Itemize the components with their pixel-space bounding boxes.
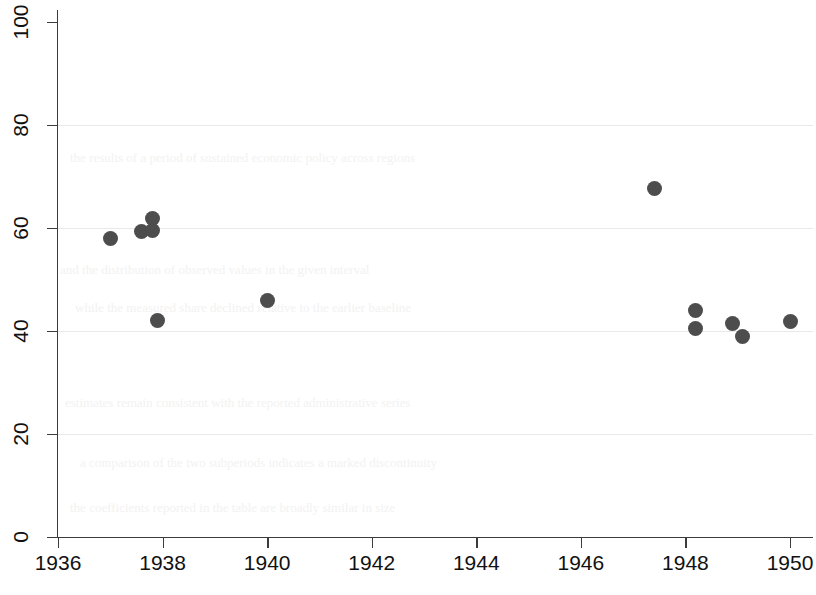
data-point (783, 314, 798, 329)
x-tick-label: 1936 (35, 551, 82, 575)
data-point (688, 303, 703, 318)
x-tick-label: 1944 (453, 551, 500, 575)
y-tick-40 (47, 331, 58, 332)
x-tick-1936 (58, 538, 59, 548)
x-axis-line (57, 537, 813, 538)
x-tick-label: 1948 (662, 551, 709, 575)
y-tick-20 (47, 434, 58, 435)
data-point (150, 313, 165, 328)
x-tick-1944 (476, 538, 477, 548)
x-tick-1938 (163, 538, 164, 548)
y-tick-label: 100 (9, 4, 33, 39)
x-tick-1950 (790, 538, 791, 548)
y-tick-60 (47, 228, 58, 229)
x-tick-label: 1940 (244, 551, 291, 575)
bleed-line: the coefficients reported in the table a… (70, 500, 395, 516)
gridline-y-80 (58, 125, 813, 126)
y-tick-label: 40 (9, 319, 33, 342)
x-tick-label: 1946 (557, 551, 604, 575)
data-point (735, 329, 750, 344)
x-tick-label: 1942 (348, 551, 395, 575)
data-point (260, 293, 275, 308)
y-tick-100 (47, 22, 58, 23)
bleed-line: estimates remain consistent with the rep… (65, 395, 410, 411)
x-tick-1948 (685, 538, 686, 548)
gridline-y-60 (58, 228, 813, 229)
x-tick-label: 1938 (139, 551, 186, 575)
data-point (145, 223, 160, 238)
bleed-line: the results of a period of sustained eco… (70, 150, 415, 166)
data-point (688, 321, 703, 336)
bleed-line: a comparison of the two subperiods indic… (80, 455, 437, 471)
y-tick-80 (47, 125, 58, 126)
x-tick-1946 (581, 538, 582, 548)
x-tick-1942 (372, 538, 373, 548)
y-tick-label: 20 (9, 422, 33, 445)
y-tick-label: 0 (9, 531, 33, 543)
data-point (103, 231, 118, 246)
x-tick-label: 1950 (767, 551, 814, 575)
bleed-line: while the measured share declined relati… (75, 300, 411, 316)
y-tick-label: 80 (9, 113, 33, 136)
data-point (647, 181, 662, 196)
y-tick-0 (47, 537, 58, 538)
scatter-chart: the results of a period of sustained eco… (0, 0, 816, 595)
bleed-line: and the distribution of observed values … (60, 262, 369, 278)
x-tick-1940 (267, 538, 268, 548)
y-tick-label: 60 (9, 216, 33, 239)
y-axis-line (57, 10, 58, 538)
gridline-y-20 (58, 434, 813, 435)
